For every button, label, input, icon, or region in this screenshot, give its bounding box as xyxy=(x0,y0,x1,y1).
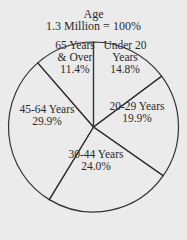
slice-label-line: 24.0% xyxy=(56,160,136,172)
slice-label: 20-29 Years19.9% xyxy=(97,100,177,124)
slice-label-line: 11.4% xyxy=(35,63,115,75)
slice-label-line: 45-64 Years xyxy=(7,103,87,115)
slice-label: 30-44 Years24.0% xyxy=(56,148,136,172)
slice-label-line: 19.9% xyxy=(97,112,177,124)
slice-label: 65 Years& Over11.4% xyxy=(35,39,115,75)
slice-label-line: & Over xyxy=(35,51,115,63)
slice-label-line: 20-29 Years xyxy=(97,100,177,112)
slice-label-line: 29.9% xyxy=(7,115,87,127)
slice-label-line: 30-44 Years xyxy=(56,148,136,160)
slice-label-line: 65 Years xyxy=(35,39,115,51)
slice-label: 45-64 Years29.9% xyxy=(7,103,87,127)
pie-slice xyxy=(9,63,94,200)
